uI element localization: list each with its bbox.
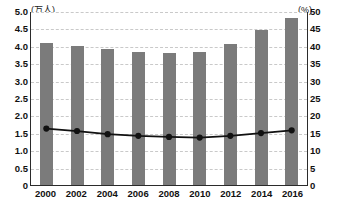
right-axis-tick-label: 30: [310, 77, 321, 87]
line-marker: [43, 126, 49, 132]
left-axis-tick-label: 2.0: [15, 112, 28, 122]
left-axis-tick-label: 2.5: [15, 94, 28, 104]
line-marker: [166, 134, 172, 140]
line-marker: [227, 133, 233, 139]
x-axis-tick-label: 2008: [154, 189, 185, 199]
x-axis-tick-label: 2014: [246, 189, 277, 199]
right-axis-tick-label: 50: [310, 7, 321, 17]
left-axis-tick-label: 3.0: [15, 77, 28, 87]
right-axis-tick-label: 5: [310, 164, 315, 174]
left-axis-tick-label: 1.5: [15, 129, 28, 139]
left-axis-tick-label: 5.0: [15, 7, 28, 17]
left-axis-tick-label: 0: [23, 181, 28, 191]
right-axis-tick-label: 10: [310, 146, 321, 156]
right-axis-tick-label: 35: [310, 59, 321, 69]
right-axis-tick-labels: 05101520253035404550: [310, 12, 336, 186]
left-axis-tick-labels: 00.51.01.52.02.53.03.54.04.55.0: [2, 12, 28, 186]
line-marker: [105, 131, 111, 137]
x-axis-tick-label: 2002: [61, 189, 92, 199]
right-axis-tick-label: 0: [310, 181, 315, 191]
left-axis-tick-label: 1.0: [15, 146, 28, 156]
right-axis-tick-label: 40: [310, 42, 321, 52]
left-axis-tick-label: 3.5: [15, 59, 28, 69]
plot-area: [30, 12, 308, 186]
chart-container: (万人) (%) 00.51.01.52.02.53.03.54.04.55.0…: [0, 0, 338, 213]
x-axis-tick-label: 2010: [184, 189, 215, 199]
line-series: [31, 12, 307, 185]
right-axis-tick-label: 25: [310, 94, 321, 104]
x-axis-category-labels: 200020022004200620082010201220142016: [30, 189, 308, 199]
line-marker: [258, 130, 264, 136]
x-axis-tick-label: 2004: [92, 189, 123, 199]
x-axis-tick-label: 2016: [277, 189, 308, 199]
left-axis-tick-label: 4.5: [15, 25, 28, 35]
line-marker: [197, 135, 203, 141]
right-axis-tick-label: 20: [310, 112, 321, 122]
x-axis-tick-label: 2000: [30, 189, 61, 199]
left-axis-tick-label: 4.0: [15, 42, 28, 52]
right-axis-tick-label: 45: [310, 25, 321, 35]
line-marker: [289, 127, 295, 133]
x-axis-tick-label: 2012: [215, 189, 246, 199]
left-axis-tick-label: 0.5: [15, 164, 28, 174]
line-marker: [135, 133, 141, 139]
right-axis-tick-label: 15: [310, 129, 321, 139]
x-axis-tick-label: 2006: [123, 189, 154, 199]
line-marker: [74, 128, 80, 134]
